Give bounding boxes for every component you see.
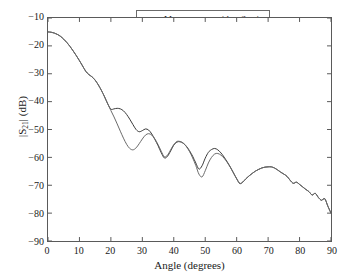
- x-tick-label: 90: [327, 246, 337, 256]
- x-tick-label: 30: [137, 246, 147, 256]
- y-tick-label: −20: [28, 40, 44, 50]
- y-tick-label: −30: [28, 68, 44, 78]
- plot-area: [47, 17, 332, 242]
- y-tick-label: −60: [28, 153, 44, 163]
- x-tick-label: 0: [45, 246, 50, 256]
- y-tick-label: −70: [28, 181, 44, 191]
- y-axis-label-subscript: 21: [21, 121, 30, 129]
- series-lines: [48, 32, 331, 213]
- x-axis-label: Angle (degrees): [47, 260, 332, 271]
- y-axis-label-base: |S: [16, 129, 28, 137]
- y-tick-label: −90: [28, 237, 44, 247]
- x-tick-label: 10: [74, 246, 84, 256]
- series-line-0: [48, 32, 331, 213]
- y-axis-label-tail: | (dB): [16, 96, 28, 121]
- y-axis-label: |S21| (dB): [17, 47, 28, 187]
- axis-ticks: [48, 18, 331, 241]
- y-tick-label: −80: [28, 209, 44, 219]
- x-tick-label: 50: [200, 246, 210, 256]
- y-tick-label: −50: [28, 125, 44, 135]
- x-tick-label: 60: [232, 246, 242, 256]
- x-tick-label: 40: [169, 246, 179, 256]
- y-tick-label: −10: [28, 12, 44, 22]
- x-tick-label: 20: [105, 246, 115, 256]
- series-line-1: [48, 32, 331, 213]
- x-tick-label: 80: [295, 246, 305, 256]
- x-tick-label: 70: [264, 246, 274, 256]
- y-tick-label: −40: [28, 96, 44, 106]
- x-axis-ticks: 0102030405060708090: [47, 246, 332, 260]
- figure-chart: Measurement with reflection Reference −1…: [0, 0, 357, 279]
- plot-svg: [48, 18, 331, 241]
